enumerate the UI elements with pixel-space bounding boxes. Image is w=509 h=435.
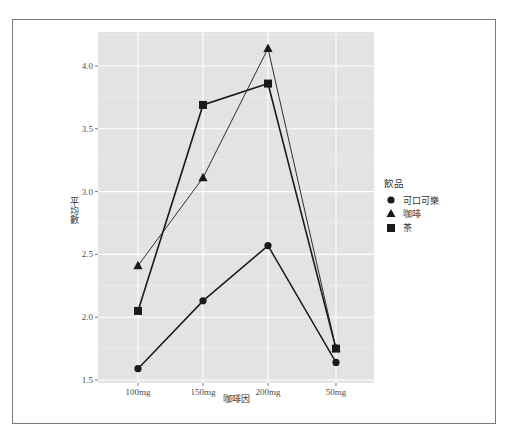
data-point	[264, 80, 272, 88]
y-tick-label: 2.5	[82, 249, 94, 259]
x-axis-title: 咖啡因	[223, 393, 250, 404]
x-tick-label: 150mg	[190, 387, 216, 397]
y-tick-label: 2.0	[82, 312, 94, 322]
data-point	[134, 307, 142, 315]
data-point	[332, 345, 340, 353]
y-tick-label: 3.0	[82, 187, 94, 197]
legend-item-cola: 可口可樂	[387, 195, 439, 206]
x-tick-label: 200mg	[255, 387, 281, 397]
legend-item-tea: 茶	[387, 222, 412, 233]
y-tick-label: 3.5	[82, 124, 94, 134]
legend-title: 飲品	[384, 178, 404, 189]
y-tick-label: 1.5	[82, 375, 94, 385]
triangle-icon	[387, 209, 396, 217]
data-point	[199, 101, 207, 109]
y-axis: 1.52.02.53.03.54.0	[82, 61, 98, 385]
legend-label: 茶	[403, 222, 412, 233]
legend-label: 可口可樂	[403, 195, 439, 206]
y-axis-title: 平均數	[69, 197, 79, 225]
square-icon	[387, 224, 395, 232]
circle-icon	[387, 196, 394, 203]
y-tick-label: 4.0	[82, 61, 94, 71]
data-point	[199, 297, 206, 304]
legend-item-coffee: 咖啡	[387, 208, 422, 219]
legend-label: 咖啡	[403, 208, 421, 219]
x-tick-label: 50mg	[326, 387, 347, 397]
data-point	[134, 365, 141, 372]
data-point	[264, 242, 271, 249]
data-point	[332, 359, 339, 366]
x-tick-label: 100mg	[125, 387, 151, 397]
legend: 飲品 可口可樂 咖啡 茶	[384, 178, 439, 233]
plot-panel	[98, 32, 374, 383]
line-chart: 1.52.02.53.03.54.0 100mg150mg200mg50mg 咖…	[0, 0, 509, 435]
